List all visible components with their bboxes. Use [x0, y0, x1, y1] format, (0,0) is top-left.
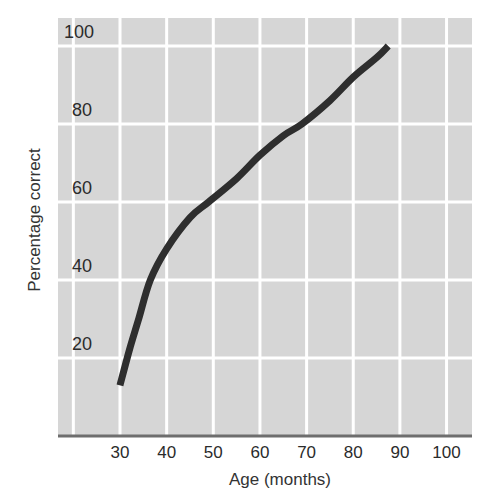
x-tick-labels: 30405060708090100 [111, 443, 461, 462]
y-tick-label: 80 [72, 100, 92, 120]
y-tick-label: 60 [72, 178, 92, 198]
x-tick-label: 80 [344, 443, 363, 462]
x-tick-label: 70 [297, 443, 316, 462]
x-tick-label: 40 [157, 443, 176, 462]
x-tick-label: 60 [250, 443, 269, 462]
y-axis-label-container: Percentage correct [20, 120, 50, 320]
y-tick-label: 20 [72, 334, 92, 354]
x-tick-label: 90 [390, 443, 409, 462]
y-tick-label: 100 [64, 22, 94, 42]
x-tick-label: 30 [111, 443, 130, 462]
y-tick-label: 40 [72, 256, 92, 276]
x-tick-label: 50 [204, 443, 223, 462]
y-axis-label: Percentage correct [25, 148, 45, 292]
x-axis-label: Age (months) [200, 470, 360, 490]
x-tick-label: 100 [432, 443, 460, 462]
line-chart: 20406080100 30405060708090100 [0, 0, 491, 504]
